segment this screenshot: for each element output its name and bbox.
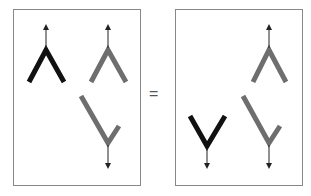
gray-up-caret bbox=[91, 27, 126, 82]
black-down-caret bbox=[190, 116, 225, 166]
gray-up-caret bbox=[253, 27, 286, 82]
right-panel bbox=[176, 10, 303, 186]
black-up-caret bbox=[29, 27, 64, 82]
gray-down-check bbox=[243, 96, 280, 166]
equals-sign: = bbox=[149, 85, 158, 103]
left-panel bbox=[14, 10, 141, 186]
gray-down-check bbox=[81, 96, 119, 166]
